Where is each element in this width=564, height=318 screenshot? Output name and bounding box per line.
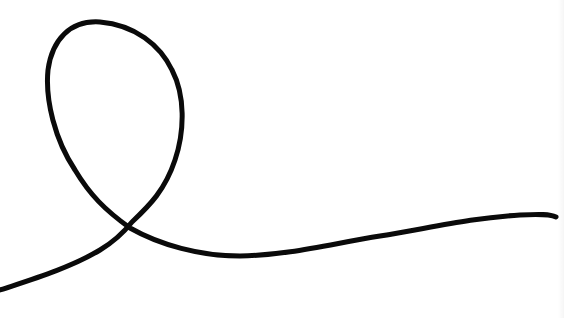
drawing-canvas xyxy=(0,0,564,318)
loop-line-drawing xyxy=(0,0,564,318)
right-edge-shadow xyxy=(558,0,564,318)
background xyxy=(0,0,564,318)
